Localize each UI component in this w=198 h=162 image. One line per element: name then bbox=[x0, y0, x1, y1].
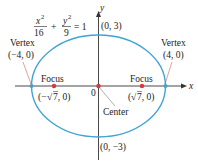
svg-text:7, 0): 7, 0) bbox=[53, 92, 70, 103]
right-vertex-title: Vertex bbox=[161, 38, 186, 48]
left-vertex-coord: (−4, 0) bbox=[8, 50, 34, 61]
ellipse-diagram: x 2 16 + y 2 9 = 1 y x 0 (0, 3) (0, −3) … bbox=[0, 0, 198, 162]
right-focus-title: Focus bbox=[130, 74, 153, 84]
svg-text:7, 0): 7, 0) bbox=[137, 92, 154, 103]
center-label: Center bbox=[103, 107, 129, 117]
right-vertex-point bbox=[164, 84, 168, 88]
ellipse-equation: x 2 16 + y 2 9 = 1 bbox=[34, 13, 87, 38]
left-vertex-point bbox=[30, 84, 34, 88]
eq-plus: + bbox=[51, 22, 56, 32]
origin-label: 0 bbox=[91, 88, 96, 98]
center-leader bbox=[99, 87, 115, 106]
top-point-label: (0, 3) bbox=[101, 21, 122, 32]
y-axis-label: y bbox=[99, 3, 105, 13]
svg-text:(−: (− bbox=[38, 92, 47, 103]
x-axis-arrow-icon bbox=[181, 84, 187, 89]
left-vertex-leader bbox=[23, 62, 31, 84]
left-focus-title: Focus bbox=[41, 74, 64, 84]
left-vertex-title: Vertex bbox=[10, 38, 35, 48]
eq-x-exp: 2 bbox=[41, 13, 44, 20]
right-vertex-leader bbox=[165, 62, 172, 84]
eq-x-den: 16 bbox=[34, 28, 44, 38]
eq-y-den: 9 bbox=[64, 28, 69, 38]
right-vertex-coord: (4, 0) bbox=[163, 50, 184, 61]
right-focus-point bbox=[140, 84, 144, 88]
eq-equals: = 1 bbox=[74, 22, 87, 32]
left-focus-coord: (− √ 7, 0) bbox=[38, 92, 70, 104]
bottom-point-label: (0, −3) bbox=[100, 142, 126, 153]
left-focus-point bbox=[52, 84, 56, 88]
center-point bbox=[96, 84, 100, 88]
right-focus-coord: ( √ 7, 0) bbox=[128, 92, 154, 104]
x-axis-label: x bbox=[188, 81, 194, 91]
eq-y-exp: 2 bbox=[68, 13, 71, 20]
